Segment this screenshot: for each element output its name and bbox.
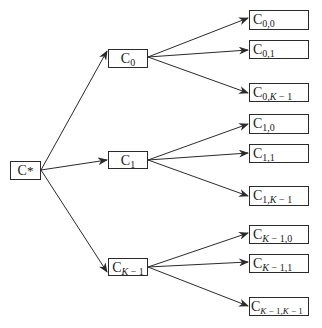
node-sub: − 1: [277, 194, 293, 205]
node-ck-minus-1: CK − 1: [108, 258, 148, 276]
node-label: C: [251, 299, 260, 314]
edge-c1-1k: [148, 160, 248, 196]
edge-ck-k0: [148, 233, 248, 267]
node-label: C: [121, 51, 130, 66]
node-c1-1: C1,1: [249, 144, 309, 163]
node-sub: − 1,1: [269, 262, 292, 273]
node-ck-k-minus-1: CK − 1,K − 1: [249, 297, 309, 316]
node-label: C: [112, 260, 121, 275]
node-sub: 1,0: [262, 122, 275, 133]
node-c0: C0: [108, 49, 148, 68]
node-sub: − 1,0: [269, 233, 292, 244]
node-sub-k: K: [270, 91, 277, 102]
node-sub-k: K: [270, 194, 277, 205]
node-label: C: [253, 256, 262, 271]
node-sub: − 1,: [266, 306, 282, 316]
node-sub: 0,1: [262, 48, 275, 59]
node-c1: C1: [108, 151, 148, 169]
node-ck-1: CK − 1,1: [249, 254, 309, 273]
node-sub: 0,: [262, 91, 270, 102]
node-root: C*: [10, 161, 41, 180]
node-sub: 1,1: [262, 152, 275, 163]
node-label: C: [253, 188, 262, 203]
node-label: C: [253, 42, 262, 57]
node-sub: − 1: [289, 306, 303, 316]
node-sup: *: [27, 163, 34, 178]
node-c0-k-minus-1: C0,K − 1: [249, 83, 309, 102]
node-c1-0: C1,0: [249, 114, 309, 134]
node-ck-0: CK − 1,0: [249, 225, 309, 244]
node-sub: 0: [130, 57, 135, 68]
edge-c0-0k: [148, 57, 248, 93]
node-sub: 1: [130, 159, 135, 170]
node-c0-0: C0,0: [249, 10, 309, 30]
node-label: C: [121, 153, 130, 168]
node-sub: − 1: [128, 266, 144, 277]
node-label: C: [253, 12, 262, 27]
node-sub-k: K: [262, 262, 269, 273]
node-label: C: [253, 85, 262, 100]
edge-ck-kk: [148, 267, 248, 306]
node-label: C: [253, 146, 262, 161]
edge-c1-11: [148, 153, 248, 160]
node-c0-1: C0,1: [249, 40, 309, 59]
node-sub: 1,: [262, 194, 270, 205]
edge-c1-10: [148, 124, 248, 160]
edge-root-ck1: [41, 170, 107, 272]
edge-root-c1: [41, 160, 107, 170]
node-label: C: [18, 163, 27, 178]
node-sub: − 1: [277, 91, 293, 102]
edge-root-c0: [41, 51, 107, 170]
node-label: C: [253, 227, 262, 242]
node-label: C: [253, 116, 262, 131]
node-sub: 0,0: [262, 18, 275, 29]
node-c1-k-minus-1: C1,K − 1: [249, 186, 309, 206]
edge-ck-k1: [148, 262, 248, 267]
tree-diagram: C* C0 C1 CK − 1 C0,0 C0,1 C0,K − 1 C1,0 …: [0, 0, 322, 328]
node-sub-k: K: [262, 233, 269, 244]
